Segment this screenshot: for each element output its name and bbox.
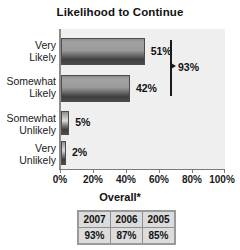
bar-somewhat-unlikely xyxy=(61,111,69,135)
x-tick-label: 100% xyxy=(202,174,240,185)
x-axis-line xyxy=(59,169,225,170)
bar-value-very-likely: 51% xyxy=(151,45,172,57)
x-axis-tick xyxy=(224,169,225,173)
overall-label: Overall* xyxy=(0,191,240,203)
category-label-somewhat-unlikely: Somewhat Unlikely xyxy=(0,113,56,136)
bracket-arrow-icon xyxy=(171,63,176,69)
x-axis-tick xyxy=(159,169,160,173)
table-header-cell: 2005 xyxy=(143,211,176,228)
summary-table: 2007 2006 2005 93% 87% 85% xyxy=(77,210,176,245)
table-cell: 85% xyxy=(143,228,176,245)
table-header-cell: 2006 xyxy=(111,211,143,228)
chart-figure: Likelihood to Continue Very Likely Somew… xyxy=(0,0,240,250)
x-axis-tick xyxy=(60,169,61,173)
x-axis-tick xyxy=(93,169,94,173)
bar-very-likely xyxy=(61,38,145,65)
table-cell: 93% xyxy=(78,228,111,245)
chart-title: Likelihood to Continue xyxy=(0,6,240,18)
bar-very-unlikely xyxy=(61,141,66,165)
bar-value-very-unlikely: 2% xyxy=(72,146,87,158)
bar-value-somewhat-unlikely: 5% xyxy=(75,116,90,128)
bracket-total-label: 93% xyxy=(178,61,199,73)
category-label-very-likely: Very Likely xyxy=(0,40,56,63)
table-cell: 87% xyxy=(111,228,143,245)
x-axis-tick xyxy=(126,169,127,173)
table-row: 93% 87% 85% xyxy=(78,228,175,245)
x-axis-tick xyxy=(192,169,193,173)
category-label-very-unlikely: Very Unlikely xyxy=(0,143,56,166)
bar-value-somewhat-likely: 42% xyxy=(136,82,157,94)
category-label-somewhat-likely: Somewhat Likely xyxy=(0,76,56,99)
bar-somewhat-likely xyxy=(61,75,130,102)
table-header-cell: 2007 xyxy=(78,211,111,228)
table-row-headers: 2007 2006 2005 xyxy=(78,211,175,228)
